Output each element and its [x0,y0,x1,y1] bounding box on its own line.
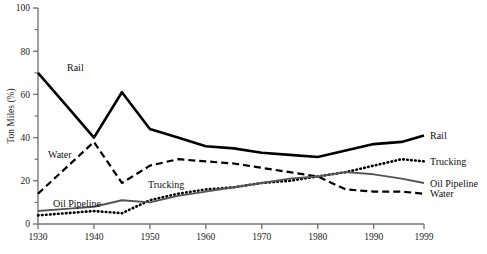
y-axis: 020406080100 Ton Miles (%) [6,3,38,229]
y-tick-label: 60 [21,90,31,100]
x-tick-label: 1950 [140,232,159,242]
x-tick-label: 1990 [364,232,383,242]
y-tick-label: 0 [25,219,30,229]
x-tick-label: 1970 [252,232,271,242]
inline-label-rail: Rail [67,62,84,73]
x-tick-label: 1960 [196,232,215,242]
x-axis-major-ticks [38,224,424,229]
series-label-oil-pipeline: Oil Pipeline [430,178,479,189]
chart-canvas: 020406080100 Ton Miles (%) 1930194019501… [0,0,487,254]
series-label-trucking: Trucking [430,156,466,167]
inline-label-trucking: Trucking [148,179,184,190]
inline-series-annotations: RailWaterTruckingOil Pipeline [48,62,184,209]
series-label-rail: Rail [430,130,447,141]
x-tick-label: 1999 [415,232,434,242]
y-tick-label: 20 [21,176,31,186]
right-series-labels: RailTruckingOil PipelineWater [430,130,479,199]
x-tick-label: 1930 [29,232,48,242]
x-tick-label: 1980 [308,232,327,242]
inline-label-oil-pipeline: Oil Pipeline [53,198,102,209]
y-tick-label: 40 [21,133,31,143]
y-tick-label: 100 [16,3,31,13]
series-label-water: Water [430,188,454,199]
y-axis-title: Ton Miles (%) [6,88,17,143]
x-axis-tick-labels: 19301940195019601970198019901999 [29,232,434,242]
x-axis: 19301940195019601970198019901999 [29,224,434,242]
x-tick-label: 1940 [84,232,103,242]
series-line-water [38,142,424,194]
series-lines [38,73,424,216]
freight-ton-miles-chart: 020406080100 Ton Miles (%) 1930194019501… [0,0,487,254]
y-axis-tick-labels: 020406080100 [16,3,31,229]
inline-label-water: Water [48,149,72,160]
y-tick-label: 80 [21,47,31,57]
